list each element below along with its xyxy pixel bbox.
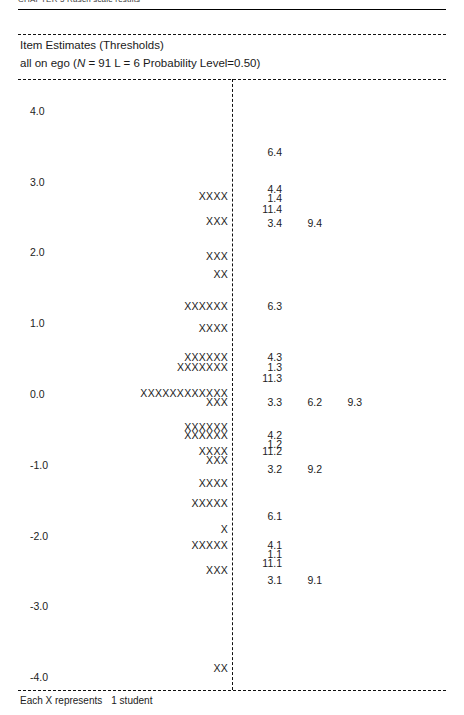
logit-axis-line: [232, 79, 233, 690]
item-threshold-label: 9.4: [288, 217, 322, 229]
item-threshold-label: 3.2: [248, 463, 282, 475]
legend-value: 1 student: [111, 695, 152, 706]
item-threshold-label: 6.1: [248, 510, 282, 522]
item-threshold-label: 6.2: [288, 396, 322, 408]
axis-tick-label: -3.0: [30, 600, 70, 612]
panel-bottom-divider: [18, 690, 446, 691]
page-title: Item Estimates (Thresholds): [20, 39, 164, 51]
axis-tick-label: -2.0: [30, 530, 70, 542]
person-x-row: XXXXX: [191, 539, 228, 551]
running-head: CHAPTER 5 Rasch scale results: [18, 0, 140, 4]
person-x-row: XXXXX: [191, 497, 228, 509]
axis-tick-label: -1.0: [30, 459, 70, 471]
person-x-row: XX: [213, 662, 228, 674]
person-x-row: XXXX: [199, 477, 228, 489]
person-x-row: XXXX: [199, 190, 228, 202]
subtitle-suffix: = 91 L = 6 Probability Level=0.50): [85, 57, 260, 69]
axis-tick-label: 0.0: [30, 388, 70, 400]
item-threshold-label: 3.1: [248, 574, 282, 586]
item-threshold-label: 3.4: [248, 217, 282, 229]
person-x-row: XXX: [206, 250, 228, 262]
legend-prefix: Each X represents: [20, 695, 102, 706]
item-threshold-label: 11.3: [248, 372, 282, 384]
legend-note: Each X represents1 student: [20, 695, 152, 706]
axis-tick-label: 2.0: [30, 246, 70, 258]
item-threshold-label: 9.1: [288, 574, 322, 586]
panel-subtitle: all on ego (N = 91 L = 6 Probability Lev…: [20, 57, 260, 69]
axis-tick-label: 4.0: [30, 105, 70, 117]
person-x-row: XXXX: [199, 322, 228, 334]
person-x-row: X: [221, 523, 228, 535]
axis-tick-label: 3.0: [30, 176, 70, 188]
person-x-row: XXX: [206, 564, 228, 576]
person-x-row: XXXXXX: [184, 429, 228, 441]
item-threshold-label: 3.3: [248, 396, 282, 408]
person-x-row: XXX: [206, 396, 228, 408]
header-rule: [18, 9, 446, 10]
axis-tick-label: -4.0: [30, 671, 70, 683]
item-threshold-label: 11.4: [248, 203, 282, 215]
item-threshold-label: 11.2: [248, 445, 282, 457]
item-threshold-label: 6.4: [248, 146, 282, 158]
person-x-row: XXXXXXX: [177, 361, 228, 373]
panel-top-divider: [18, 34, 446, 35]
item-threshold-label: 9.2: [288, 463, 322, 475]
item-threshold-label: 6.3: [248, 300, 282, 312]
person-x-row: XXXXXX: [184, 300, 228, 312]
person-x-row: XXX: [206, 454, 228, 466]
item-threshold-label: 11.1: [248, 557, 282, 569]
person-x-row: XX: [213, 268, 228, 280]
subtitle-prefix: all on ego (: [20, 57, 77, 69]
person-x-row: XXX: [206, 215, 228, 227]
item-threshold-label: 9.3: [328, 396, 362, 408]
axis-tick-label: 1.0: [30, 317, 70, 329]
subtitle-n-symbol: N: [77, 57, 85, 69]
wright-map-plot: 4.03.02.01.00.0-1.0-2.0-3.0-4.0XXXXXXXXX…: [0, 79, 464, 690]
